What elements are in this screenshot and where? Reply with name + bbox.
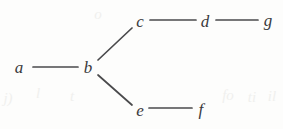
graph-edge-b-e	[98, 75, 132, 105]
diagram-canvas: abcdgef j)ltfotiilo	[0, 0, 283, 129]
graph-edge-b-c	[98, 28, 132, 60]
graph-node-a: a	[15, 59, 24, 76]
graph-node-d: d	[201, 13, 210, 30]
graph-node-g: g	[264, 12, 273, 29]
graph-node-b: b	[84, 59, 93, 76]
edge-group	[33, 20, 258, 108]
graph-node-e: e	[136, 102, 144, 119]
graph-node-f: f	[199, 101, 204, 118]
graph-node-c: c	[136, 13, 144, 30]
